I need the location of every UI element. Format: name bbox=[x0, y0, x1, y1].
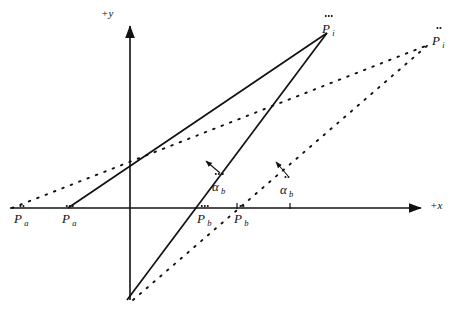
p-b-double-subscript: b bbox=[244, 218, 248, 228]
p-a-triple-subscript: a bbox=[72, 218, 76, 228]
p-a-double-base: P bbox=[14, 212, 22, 225]
double-dot-accent bbox=[436, 27, 441, 29]
triple-dot-accent bbox=[215, 173, 223, 175]
label-alpha-b-double: α b bbox=[280, 181, 294, 197]
p-i-double-subscript: i bbox=[442, 40, 444, 50]
alpha-b-double-base: α bbox=[280, 183, 287, 196]
label-p-a-double: P a bbox=[14, 210, 29, 226]
p-i-double-base: P bbox=[432, 34, 440, 47]
pointer-alpha-triple bbox=[206, 161, 220, 173]
double-dot-accent bbox=[239, 205, 244, 207]
p-i-triple-subscript: i bbox=[332, 28, 334, 38]
x-axis-label: +x bbox=[430, 200, 442, 211]
label-p-i-triple: P i bbox=[322, 20, 336, 36]
label-alpha-b-triple: α b bbox=[212, 178, 226, 194]
triple-dot-accent bbox=[201, 205, 209, 207]
p-i-triple-base: P bbox=[322, 22, 330, 35]
label-p-i-double: P i bbox=[432, 32, 446, 48]
triple-dot-accent bbox=[325, 15, 333, 17]
alpha-b-triple-base: α bbox=[212, 180, 219, 193]
ray-pb-double-to-pi-double bbox=[133, 45, 428, 300]
alpha-b-triple-subscript: b bbox=[221, 186, 225, 196]
label-p-b-triple: P b bbox=[197, 210, 212, 226]
double-dot-accent bbox=[285, 176, 290, 178]
label-p-a-triple: P a bbox=[62, 210, 77, 226]
label-p-b-double: P b bbox=[234, 210, 249, 226]
figure-canvas bbox=[0, 0, 461, 319]
geometry-figure: +y +x P a P a P b P b P bbox=[0, 0, 461, 319]
p-b-double-base: P bbox=[234, 212, 242, 225]
double-dot-accent bbox=[19, 205, 24, 207]
p-b-triple-base: P bbox=[197, 212, 205, 225]
triple-dot-accent bbox=[66, 205, 74, 207]
ray-pb-triple-to-pi-triple bbox=[127, 33, 327, 300]
p-b-triple-subscript: b bbox=[207, 218, 211, 228]
alpha-b-double-subscript: b bbox=[289, 189, 293, 199]
p-a-double-subscript: a bbox=[24, 218, 28, 228]
pointer-alpha-double bbox=[276, 162, 288, 176]
y-axis-label: +y bbox=[101, 8, 113, 19]
p-a-triple-base: P bbox=[62, 212, 70, 225]
